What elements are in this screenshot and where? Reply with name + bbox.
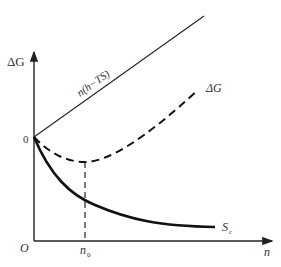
- surface-curve-sub: c: [229, 228, 233, 236]
- surface-curve-label: S: [222, 220, 228, 234]
- bulk-energy-line: [34, 16, 204, 137]
- surface-energy-curve: [34, 137, 215, 227]
- origin-label: O: [20, 241, 29, 255]
- critical-size-sub: 0: [87, 251, 91, 259]
- x-axis-label: n: [264, 245, 270, 259]
- delta-g-curve: [34, 90, 198, 162]
- diagram-canvas: ΔG 0 O n n(h−TS) ΔG S c n 0: [0, 0, 281, 267]
- y-axis-label: ΔG: [7, 54, 25, 69]
- zero-label: 0: [23, 133, 29, 145]
- critical-size-label: n: [80, 243, 86, 257]
- delta-g-label: ΔG: [205, 81, 222, 95]
